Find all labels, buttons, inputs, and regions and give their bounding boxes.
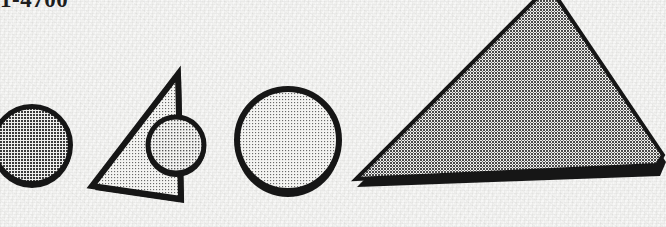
scanned-figure-page: 1-4700 (0, 0, 666, 227)
catalog-number-caption: 1-4700 (0, 0, 68, 13)
shape-circle-on-triangle-edge (146, 117, 206, 177)
geometric-shapes-figure (0, 0, 666, 227)
shape-circle-large-pale (236, 89, 340, 197)
shape-circle-left-clipped (0, 107, 72, 189)
shape-quadrilateral-large-right (356, 0, 666, 187)
